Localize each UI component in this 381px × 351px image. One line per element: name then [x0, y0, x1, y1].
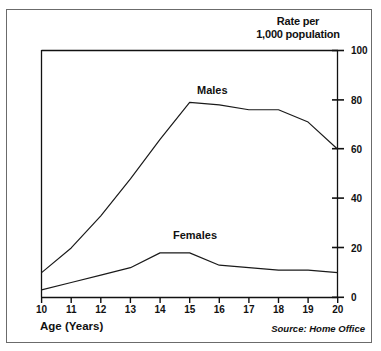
series-line-males — [42, 102, 338, 272]
x-axis-tick-label: 11 — [59, 304, 83, 315]
series-label-females: Females — [173, 229, 217, 241]
x-axis-title: Age (Years) — [40, 320, 103, 332]
x-axis-tick-label: 14 — [148, 304, 172, 315]
x-axis-tick-label: 13 — [118, 304, 142, 315]
y-axis-tick-label: 100 — [351, 45, 377, 56]
x-axis-tick-label: 17 — [237, 304, 261, 315]
x-axis-tick-label: 18 — [267, 304, 291, 315]
y-axis-tick-label: 80 — [351, 95, 377, 106]
y-axis-tick-label: 40 — [351, 193, 377, 204]
chart-figure: Rate per 1,000 population — [0, 0, 381, 351]
x-axis-tick-label: 10 — [30, 304, 54, 315]
series-line-females — [42, 253, 338, 290]
x-axis-tick-label: 19 — [296, 304, 320, 315]
y-axis-tick-label: 20 — [351, 243, 377, 254]
axes-lines — [42, 50, 339, 298]
x-axis-tick-label: 15 — [178, 304, 202, 315]
x-axis-tick-label: 16 — [207, 304, 231, 315]
y-axis-tick-label: 0 — [351, 292, 377, 303]
x-axis-tick-label: 20 — [326, 304, 350, 315]
series-label-males: Males — [197, 84, 228, 96]
plot-area — [0, 0, 381, 351]
x-axis-tick-label: 12 — [89, 304, 113, 315]
source-note: Source: Home Office — [271, 323, 365, 334]
y-axis-tick-label: 60 — [351, 144, 377, 155]
